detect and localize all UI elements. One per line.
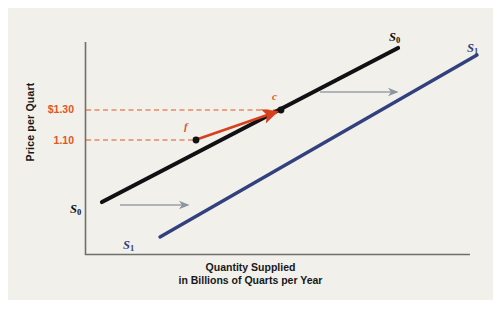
chart-canvas	[8, 8, 493, 300]
x-axis-title-line1: Quantity Supplied	[8, 261, 493, 274]
figure-panel: Price per Quart $1.30 1.10 Quantity Supp…	[8, 8, 493, 300]
x-axis-title: Quantity Supplied in Billions of Quarts …	[8, 261, 493, 287]
curve-label-s0-bottom: S0	[70, 202, 81, 217]
f-to-c-arrow	[198, 112, 276, 139]
curve-label-s1-top: S1	[467, 41, 478, 56]
curve-label-s1-bottom: S1	[123, 238, 134, 253]
y-tick-label-130: $1.30	[28, 103, 74, 115]
point-c	[278, 107, 285, 114]
point-f	[193, 137, 200, 144]
x-axis-title-line2: in Billions of Quarts per Year	[8, 274, 493, 287]
curve-label-s0-top: S0	[389, 30, 400, 45]
y-tick-label-110: 1.10	[28, 134, 74, 146]
point-label-f: f	[184, 120, 188, 132]
y-axis-title: Price per Quart	[24, 74, 36, 170]
point-label-c: c	[272, 90, 277, 102]
